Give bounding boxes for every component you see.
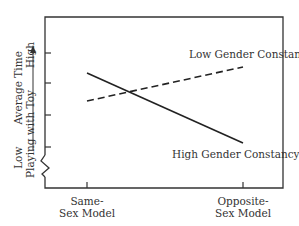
- x-label-line: Sex Model: [203, 207, 283, 219]
- y-ticks: [45, 53, 51, 147]
- axis-break: [41, 155, 49, 177]
- series-label-high: High Gender Constancy: [172, 148, 299, 160]
- plot-area: [0, 0, 299, 226]
- y-high-label: High: [24, 42, 36, 68]
- x-ticks: [87, 182, 243, 188]
- plot-frame: [45, 17, 283, 188]
- x-label-line: Opposite-: [203, 195, 283, 207]
- x-label-line: Same-: [47, 195, 127, 207]
- x-label-same-sex: Same- Sex Model: [47, 195, 127, 219]
- x-label-line: Sex Model: [47, 207, 127, 219]
- y-low-label: Low: [12, 147, 24, 169]
- series-label-low: Low Gender Constancy: [189, 48, 299, 60]
- y-axis-label: Low Average Time Playing with Toy High: [12, 30, 36, 190]
- chart: Low Average Time Playing with Toy High L…: [0, 0, 299, 226]
- x-label-opposite-sex: Opposite- Sex Model: [203, 195, 283, 219]
